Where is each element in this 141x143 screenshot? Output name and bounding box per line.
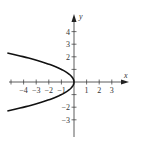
x-tick-label: −4 [19,86,28,95]
y-tick-label: −3 [61,116,70,125]
x-tick-label: −2 [45,86,54,95]
x-axis-label: x [123,71,128,80]
x-tick-label: −3 [32,86,41,95]
x-tick-label: 1 [85,86,89,95]
x-axis-arrow [121,80,129,85]
y-tick-label: −2 [61,103,70,112]
x-tick-label: 3 [110,86,114,95]
x-tick-label: 2 [97,86,101,95]
parabola-graph: xy−4−3−2−1123432−2−3 [0,0,141,143]
y-axis-arrow [72,14,77,22]
y-tick-label: 3 [66,40,70,49]
y-tick-label: 2 [66,53,70,62]
y-axis-label: y [78,12,83,21]
y-tick-label: 4 [66,28,70,37]
